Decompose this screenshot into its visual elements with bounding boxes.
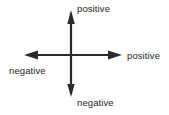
axis-label-left: negative <box>9 65 46 76</box>
arrowhead-right-icon <box>108 51 122 60</box>
axes-diagram: positive positive negative negative <box>0 0 169 115</box>
arrowhead-left-icon <box>24 51 38 60</box>
arrowhead-up-icon <box>67 10 74 24</box>
axis-label-bottom: negative <box>77 97 114 108</box>
arrowhead-down-icon <box>67 84 74 97</box>
axis-label-top: positive <box>77 3 110 14</box>
axis-label-right: positive <box>127 50 160 61</box>
